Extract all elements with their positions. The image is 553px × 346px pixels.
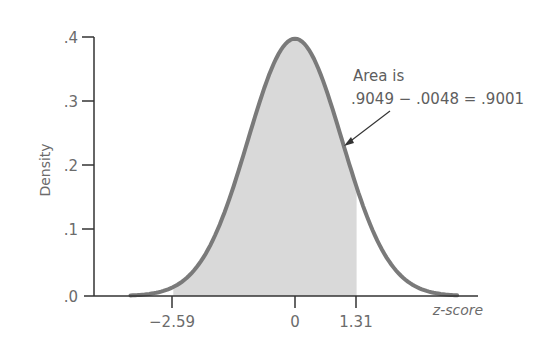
y-tick-label: .1 [64,221,78,239]
y-tick-label: .2 [64,157,78,175]
x-tick-label: 1.31 [339,313,372,331]
shaded-area [173,39,356,296]
y-tick-label: .3 [64,93,78,111]
y-tick-label: .0 [64,288,78,306]
y-tick-label: .4 [64,29,78,47]
x-ticks [172,296,356,308]
y-ticks [82,37,94,229]
x-tick-label: 0 [290,313,300,331]
x-tick-label: −2.59 [149,313,195,331]
normal-distribution-chart: .0 .1 .2 .3 .4 Density −2.59 0 1.31 z-sc… [0,0,553,346]
annotation-line-1: Area is [353,67,404,85]
annotation-arrow [344,111,390,146]
annotation-line-2: .9049 − .0048 = .9001 [351,90,524,108]
x-axis-title: z-score [432,302,483,318]
y-axis-title: Density [37,143,53,196]
